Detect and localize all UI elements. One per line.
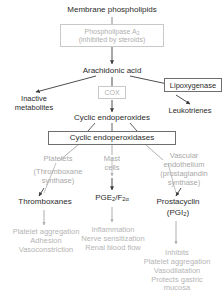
box-cox: COX bbox=[98, 86, 126, 99]
phospholipase-subscript: 2 bbox=[137, 30, 140, 36]
node-pgi-effects: Inhibits Platelet aggregation Vasodilata… bbox=[134, 249, 220, 293]
pgi-suffix: ) bbox=[186, 208, 189, 217]
pathway-diagram: Membrane phospholipids Phospholipase A2 … bbox=[0, 0, 224, 301]
node-vascular-endothelium: Vascular endothelium (prostaglandin synt… bbox=[144, 152, 224, 187]
pge2-label: PGE2/F2α bbox=[95, 193, 129, 202]
box-phospholipase-a2: Phospholipase A2 (inhibited by steroids) bbox=[60, 24, 164, 47]
cox-label: COX bbox=[104, 89, 119, 96]
thromboxanes-label: Thromboxanes bbox=[18, 197, 71, 206]
pge-sub-2: 2α bbox=[122, 196, 129, 202]
mast-line-2: cells bbox=[94, 164, 130, 173]
phospholipase-line-1: Phospholipase A2 bbox=[61, 28, 163, 36]
prostacyclin-label: Prostacyclin bbox=[138, 197, 218, 206]
pgi-effect-4: mucosa bbox=[134, 284, 220, 293]
membrane-phospholipids-label: Membrane phospholipids bbox=[67, 5, 156, 14]
thromboxane-synthase-line-2: synthase) bbox=[20, 177, 96, 186]
node-pge2-f2a: PGE2/F2α bbox=[82, 193, 142, 203]
node-membrane-phospholipids: Membrane phospholipids bbox=[0, 5, 224, 14]
node-inactive-metabolites: Inactive metabolites bbox=[0, 95, 68, 113]
node-prostacyclin: Prostacyclin (PGI2) bbox=[138, 197, 218, 219]
phospholipase-text: Phospholipase A bbox=[85, 28, 137, 35]
inactive-line-2: metabolites bbox=[0, 104, 68, 113]
lipoxygenase-label: Lipoxygenase bbox=[170, 81, 216, 90]
box-lipoxygenase: Lipoxygenase bbox=[164, 78, 222, 92]
node-cyclic-endoperoxides: Cyclic endoperoxides bbox=[0, 113, 224, 122]
phospholipase-line-2: (inhibited by steroids) bbox=[61, 36, 163, 44]
node-mast-cells: Mast cells bbox=[94, 155, 130, 173]
cyclic-endoperoxidases-label: Cyclic endoperoxidases bbox=[70, 133, 155, 142]
pgi2-label: (PGI2) bbox=[138, 208, 218, 218]
box-cyclic-endoperoxidases: Cyclic endoperoxidases bbox=[48, 131, 176, 145]
pge-prefix: PGE bbox=[95, 193, 112, 202]
pgi-prefix: (PGI bbox=[167, 208, 183, 217]
cyclic-endoperoxides-label: Cyclic endoperoxides bbox=[74, 113, 150, 122]
node-arachidonic-acid: Arachidonic acid bbox=[0, 66, 224, 75]
arachidonic-acid-label: Arachidonic acid bbox=[83, 66, 142, 75]
node-platelets: Platelets (Thromboxane synthase) bbox=[20, 155, 96, 186]
vascular-line-4: synthase) bbox=[144, 179, 224, 188]
platelets-label: Platelets bbox=[20, 155, 96, 164]
node-thromboxanes: Thromboxanes bbox=[0, 197, 90, 206]
